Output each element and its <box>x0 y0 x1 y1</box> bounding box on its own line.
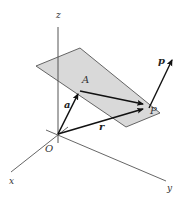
vector-p <box>149 60 172 108</box>
vector-p-label: p <box>158 55 165 66</box>
y-axis <box>46 130 166 181</box>
x-axis-label: x <box>9 176 14 186</box>
vector-r-label: r <box>99 121 105 132</box>
vector-a-label: a <box>64 99 70 110</box>
origin-label: O <box>45 143 53 154</box>
point-a-label: A <box>81 74 89 85</box>
point-p-label: P <box>149 105 157 116</box>
z-axis-label: z <box>55 10 61 20</box>
y-axis-label: y <box>166 183 173 193</box>
vector-plane-diagram: z x y O A P a r p <box>0 0 188 200</box>
plane <box>36 48 160 127</box>
